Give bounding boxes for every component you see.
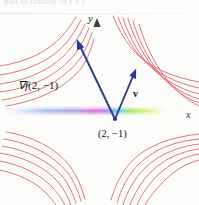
x-axis [0, 109, 182, 114]
plot-canvas [0, 0, 199, 205]
gradient-vector [77, 39, 115, 119]
y-axis-label: y [88, 14, 93, 25]
contour-plot-figure: plot of contour of f x y [0, 0, 199, 205]
gradient-vector-label: ∇f(2, −1) [18, 80, 58, 91]
point-coordinate-label: (2, −1) [98, 129, 127, 140]
contours-upper-left [0, 17, 94, 106]
contours-lower-right [111, 134, 199, 205]
contours-lower-left [0, 132, 85, 205]
x-axis-label: x [186, 110, 191, 121]
vector-v-label: v [133, 89, 138, 99]
point-marker [113, 117, 117, 121]
gradient-nabla-symbol: ∇ [18, 79, 25, 91]
gradient-arguments: (2, −1) [28, 79, 58, 91]
